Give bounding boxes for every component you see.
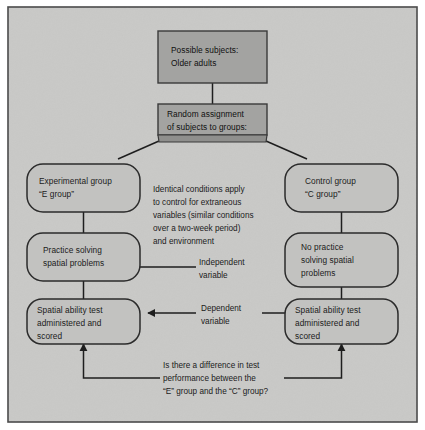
node-random-assignment[interactable]: Random assignment of subjects to groups: [158,104,267,142]
no-practice-line-2: solving spatial [301,255,354,265]
experimental-group-line-1: Experimental group [39,176,112,186]
dependent-variable-line-2: variable [201,317,230,326]
practice-solving-box [27,233,140,281]
annotation-research-question: Is there a difference in test performanc… [163,361,269,396]
spatial-test-right-line-1: Spatial ability test [295,305,361,315]
no-practice-line-1: No practice [301,242,344,252]
node-control-group[interactable]: Control group “C group” [285,164,398,212]
identical-conditions-line-1: Identical conditions apply [153,185,245,194]
possible-subjects-line-2: Older adults [171,58,216,68]
identical-conditions-line-4: over a two-week period) [153,224,241,233]
identical-conditions-line-3: variables (similar conditions [153,211,254,220]
node-spatial-test-experimental[interactable]: Spatial ability test administered and sc… [27,299,140,344]
node-no-practice-solving[interactable]: No practice solving spatial problems [285,233,398,287]
flowchart-figure: Possible subjects: Older adults Random a… [0,0,425,430]
practice-solving-line-1: Practice solving [43,245,102,255]
control-group-line-2: “C group” [305,189,341,199]
node-spatial-test-control[interactable]: Spatial ability test administered and sc… [285,299,398,344]
research-question-line-2: performance between the [163,374,256,383]
spatial-test-left-line-1: Spatial ability test [37,305,103,315]
no-practice-line-3: problems [301,268,336,278]
possible-subjects-line-1: Possible subjects: [171,45,238,55]
independent-variable-line-2: variable [199,271,228,280]
node-possible-subjects[interactable]: Possible subjects: Older adults [158,31,267,83]
flowchart-canvas: Possible subjects: Older adults Random a… [0,0,425,430]
identical-conditions-line-2: to control for extraneous [153,198,241,207]
possible-subjects-box [158,31,267,83]
independent-variable-line-1: Independent [199,258,245,267]
experimental-group-line-2: “E group” [39,189,74,199]
node-practice-solving[interactable]: Practice solving spatial problems [27,233,140,281]
research-question-line-1: Is there a difference in test [163,361,260,370]
spatial-test-right-line-3: scored [295,331,321,341]
random-assignment-line-1: Random assignment [167,109,245,119]
random-assignment-line-2: of subjects to groups: [167,122,247,132]
identical-conditions-line-5: and environment [153,237,215,246]
research-question-line-3: “E” group and the “C” group? [163,387,269,396]
control-group-line-1: Control group [305,176,356,186]
node-experimental-group[interactable]: Experimental group “E group” [27,164,140,212]
spatial-test-left-line-3: scored [37,331,63,341]
spatial-test-right-line-2: administered and [295,318,360,328]
dependent-variable-line-1: Dependent [201,304,242,313]
spatial-test-left-line-2: administered and [37,318,102,328]
practice-solving-line-2: spatial problems [43,258,104,268]
random-assignment-bevel [158,135,267,142]
control-group-box [285,164,398,212]
experimental-group-box [27,164,140,212]
